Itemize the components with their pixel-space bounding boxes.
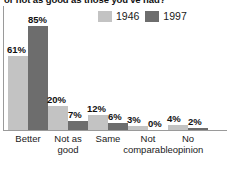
bar-group: 3%0% bbox=[128, 0, 168, 131]
category-label-line: No bbox=[160, 133, 216, 144]
bar-group: 61%85% bbox=[8, 0, 48, 131]
chart-figure: or not as good as those you've had? 1946… bbox=[0, 0, 230, 170]
bar-group: 20%7% bbox=[48, 0, 88, 131]
bar-1997-not-as-good bbox=[68, 121, 88, 130]
bar-1997-better bbox=[28, 26, 48, 130]
bar-group: 12%6% bbox=[88, 0, 128, 131]
bar-1946-no-opinion bbox=[168, 125, 188, 130]
bar-1946-better bbox=[8, 56, 28, 130]
bar-value-label: 61% bbox=[7, 45, 26, 55]
bar-1997-same bbox=[108, 123, 128, 130]
bar-value-label: 85% bbox=[28, 15, 47, 25]
category-label-no-opinion: Noopinion bbox=[160, 133, 216, 155]
category-axis-labels: BetterNot asgoodSameNotcomparableNoopini… bbox=[0, 133, 230, 170]
bar-value-label: 20% bbox=[47, 95, 66, 105]
bar-value-label: 0% bbox=[148, 119, 162, 129]
bar-value-label: 2% bbox=[188, 117, 202, 127]
bar-value-label: 3% bbox=[127, 115, 141, 125]
bar-1946-same bbox=[88, 115, 108, 130]
bar-value-label: 7% bbox=[68, 110, 82, 120]
category-label-line: opinion bbox=[160, 144, 216, 155]
bar-1997-no-opinion bbox=[188, 128, 208, 130]
category-label-line: good bbox=[40, 144, 96, 155]
bar-value-label: 12% bbox=[87, 104, 106, 114]
bar-1946-not-as-good bbox=[48, 106, 68, 130]
plot-area: 61%85%20%7%12%6%3%0%4%2% bbox=[0, 0, 230, 131]
bar-value-label: 4% bbox=[167, 114, 181, 124]
bar-1946-not-comparable bbox=[128, 126, 148, 130]
bar-value-label: 6% bbox=[108, 112, 122, 122]
bar-group: 4%2% bbox=[168, 0, 208, 131]
